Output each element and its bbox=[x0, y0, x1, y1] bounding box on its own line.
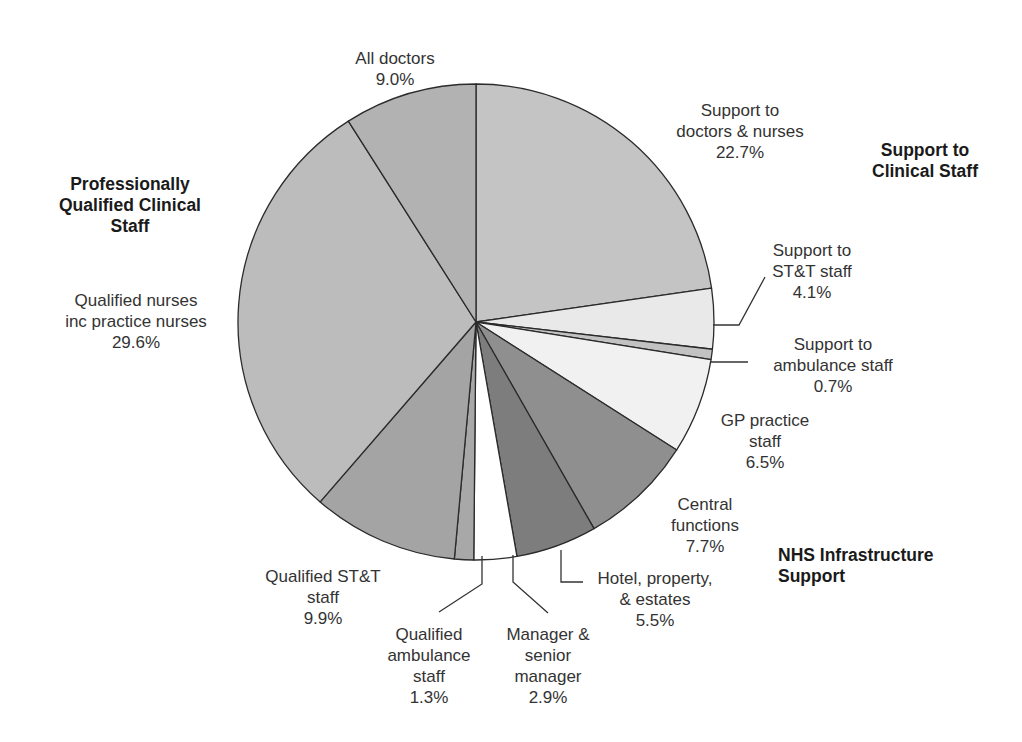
label-hotel: Hotel, property, & estates 5.5% bbox=[580, 568, 730, 631]
group-nhs-infrastructure: NHS Infrastructure Support bbox=[778, 545, 978, 587]
label-qualified-nurses: Qualified nurses inc practice nurses 29.… bbox=[16, 290, 256, 353]
label-qualified-stt: Qualified ST&T staff 9.9% bbox=[248, 566, 398, 629]
pie-slices bbox=[238, 84, 714, 560]
label-gp-practice: GP practice staff 6.5% bbox=[700, 410, 830, 473]
label-support-doctors-nurses: Support to doctors & nurses 22.7% bbox=[650, 100, 830, 163]
group-support-clinical: Support to Clinical Staff bbox=[850, 140, 1000, 182]
label-all-doctors: All doctors 9.0% bbox=[330, 48, 460, 90]
group-professionally-qualified: Professionally Qualified Clinical Staff bbox=[40, 174, 220, 237]
label-support-stt: Support to ST&T staff 4.1% bbox=[752, 240, 872, 303]
label-support-ambulance: Support to ambulance staff 0.7% bbox=[748, 334, 918, 397]
leader-qualified-ambulance bbox=[439, 556, 482, 612]
leader-manager bbox=[513, 555, 548, 613]
label-central-functions: Central functions 7.7% bbox=[640, 494, 770, 557]
label-qualified-ambulance: Qualified ambulance staff 1.3% bbox=[374, 624, 484, 708]
label-manager: Manager & senior manager 2.9% bbox=[488, 624, 608, 708]
